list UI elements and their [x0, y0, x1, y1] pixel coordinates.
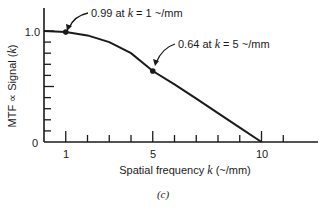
x-tick-label-1: 1: [63, 148, 69, 160]
y-ticks: [44, 31, 54, 131]
figure-caption: (c): [157, 188, 170, 201]
arrowhead-k5: [153, 59, 159, 66]
x-tick-label-10: 10: [256, 148, 268, 160]
x-ticks: [66, 131, 284, 142]
arrow-k5: [156, 44, 175, 63]
x-tick-label-5: 5: [150, 148, 156, 160]
annotation-k5: 0.64 at k = 5 ~/mm: [178, 37, 270, 51]
y-axis-label: MTF ∝ Signal (k): [5, 44, 19, 127]
arrowheads: [66, 24, 159, 66]
data-point: [150, 68, 156, 74]
axes: [44, 8, 318, 142]
y-tick-label-1: 1.0: [25, 26, 40, 38]
x-axis-label: Spatial frequency k (~/mm): [119, 163, 251, 177]
y-tick-label-0: 0: [32, 137, 38, 149]
arrow-k1: [69, 13, 88, 28]
data-points: [63, 29, 156, 73]
annotation-k1: 0.99 at k = 1 ~/mm: [91, 6, 183, 20]
annotation-arrows: [69, 13, 175, 63]
mtf-chart: 1.0 0 1 5 10 0.99 at k = 1 ~/mm 0.64 at …: [0, 0, 325, 212]
